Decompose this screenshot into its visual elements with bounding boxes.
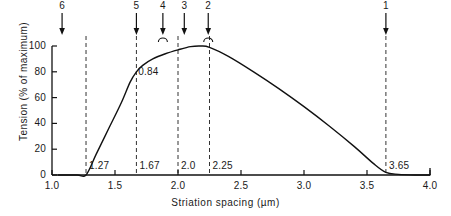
x-tick-label: 2.5 <box>224 180 258 191</box>
y-tick-label: 20 <box>20 143 46 154</box>
x-tick-label: 1.5 <box>98 180 132 191</box>
vline-value-label: 1.27 <box>89 160 109 171</box>
vertical-dashed-lines <box>86 36 386 175</box>
x-tick-label: 3.5 <box>350 180 384 191</box>
y-tick-label: 0 <box>20 169 46 180</box>
x-tick-label: 1.0 <box>35 180 69 191</box>
vline-value-label: 3.65 <box>389 160 409 171</box>
curve-annotation: 0.84 <box>138 66 158 77</box>
x-tick-label: 4.0 <box>413 180 447 191</box>
x-tick-label: 2.0 <box>161 180 195 191</box>
chart-axes <box>52 46 430 175</box>
arrow-number-label: 3 <box>177 0 191 11</box>
x-axis-label: Striation spacing (µm) <box>0 197 451 208</box>
y-tick-label: 80 <box>20 66 46 77</box>
vline-value-label: 2.25 <box>213 160 233 171</box>
arrow-number-label: 2 <box>201 0 215 11</box>
arrow-number-label: 5 <box>129 0 143 11</box>
y-axis-label: Tension (% of maximum) <box>18 12 29 152</box>
arrow-number-label: 6 <box>55 0 69 11</box>
tension-curve <box>58 46 430 177</box>
vline-value-label: 2.0 <box>181 160 196 171</box>
y-tick-label: 60 <box>20 92 46 103</box>
x-tick-label: 3.0 <box>287 180 321 191</box>
arrow-number-label: 4 <box>156 0 170 11</box>
marker-arrows <box>59 13 388 42</box>
y-tick-label: 40 <box>20 117 46 128</box>
chart-figure: Tension (% of maximum) Striation spacing… <box>0 0 451 216</box>
arrow-number-label: 1 <box>379 0 393 11</box>
y-tick-label: 100 <box>20 40 46 51</box>
vline-value-label: 1.67 <box>139 160 159 171</box>
